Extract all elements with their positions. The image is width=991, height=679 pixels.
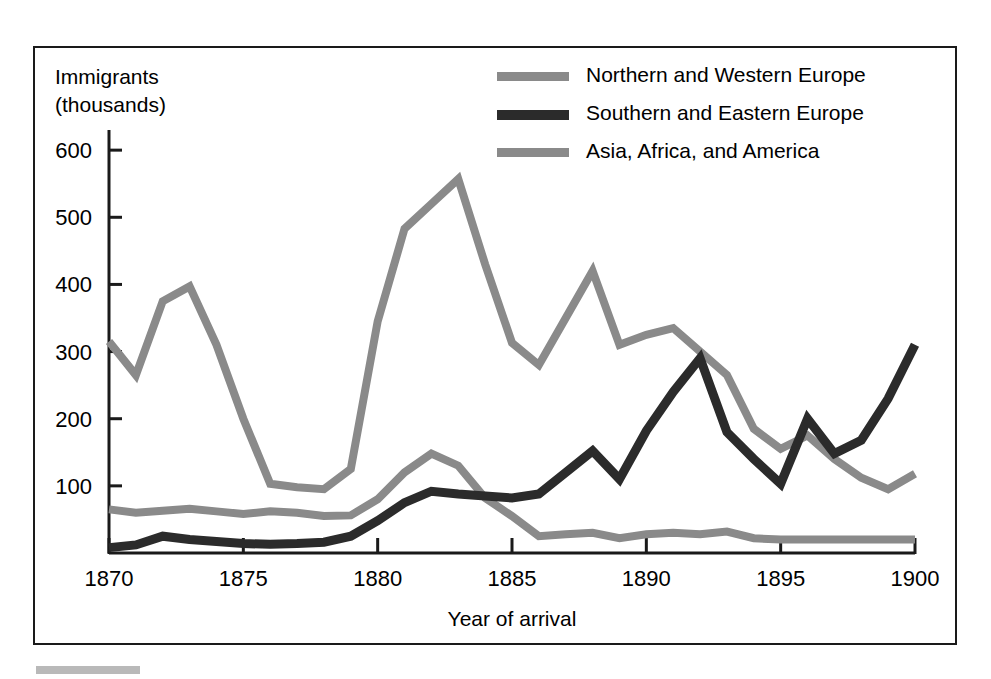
y-axis-title-line2: (thousands) [55,93,166,116]
chart-legend: Northern and Western Europe Southern and… [497,63,866,162]
immigration-line-chart: Northern and Western Europe Southern and… [35,48,955,643]
legend-swatch-asia-africa-america [497,148,569,157]
x-axis-ticks: 1870187518801885189018951900 [85,538,940,591]
y-axis-ticks: 100200300400500600 [55,138,122,499]
y-axis-tick-label: 300 [55,340,92,365]
y-axis-tick-label: 100 [55,474,92,499]
y-axis-tick-label: 200 [55,407,92,432]
x-axis-tick-label: 1870 [85,566,134,591]
y-axis-title: Immigrants (thousands) [55,65,166,116]
y-axis-title-line1: Immigrants [55,65,159,88]
y-axis-tick-label: 600 [55,138,92,163]
x-axis-tick-label: 1900 [891,566,940,591]
x-axis-tick-label: 1885 [488,566,537,591]
x-axis-tick-label: 1875 [219,566,268,591]
x-axis-title: Year of arrival [448,607,577,630]
x-axis-tick-label: 1890 [622,566,671,591]
chart-frame: Northern and Western Europe Southern and… [33,46,957,645]
y-axis-tick-label: 400 [55,272,92,297]
legend-label-asia-africa-america: Asia, Africa, and America [586,139,820,162]
x-axis-tick-label: 1895 [756,566,805,591]
legend-label-northern-western-europe: Northern and Western Europe [586,63,866,86]
figure-root: Northern and Western Europe Southern and… [0,0,991,679]
x-axis-tick-label: 1880 [353,566,402,591]
footer-marker-bar [36,666,140,674]
y-axis-tick-label: 500 [55,205,92,230]
legend-swatch-northern-western-europe [497,72,569,81]
legend-label-southern-eastern-europe: Southern and Eastern Europe [586,101,864,124]
chart-series-group [109,179,915,548]
legend-swatch-southern-eastern-europe [497,110,569,120]
